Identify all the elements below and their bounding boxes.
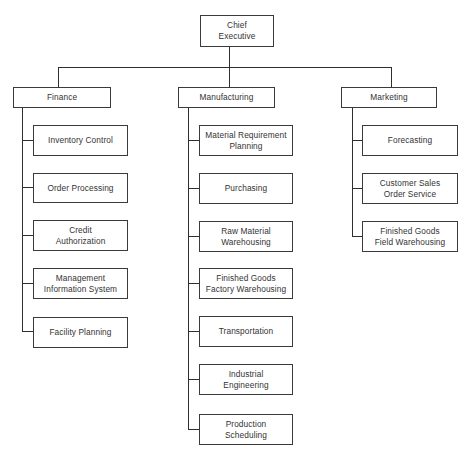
finance-branch	[22, 283, 33, 284]
connector-to-manufacturing	[229, 67, 230, 87]
node-production-scheduling: Production Scheduling	[199, 414, 293, 445]
node-finished-goods-field-warehousing: Finished Goods Field Warehousing	[362, 221, 458, 252]
marketing-branch	[352, 236, 362, 237]
node-purchasing: Purchasing	[199, 173, 293, 204]
node-chief-executive: Chief Executive	[200, 15, 274, 47]
node-transportation: Transportation	[199, 316, 293, 347]
node-forecasting: Forecasting	[362, 125, 458, 156]
node-facility-planning: Facility Planning	[33, 317, 128, 348]
marketing-stem	[352, 107, 353, 237]
manufacturing-branch	[188, 283, 199, 284]
marketing-branch	[352, 140, 362, 141]
node-management-information-system: Management Information System	[33, 268, 128, 299]
node-material-requirement-planning: Material Requirement Planning	[199, 125, 293, 156]
manufacturing-stem	[188, 107, 189, 430]
marketing-branch	[352, 188, 362, 189]
finance-branch	[22, 331, 33, 332]
manufacturing-branch	[188, 331, 199, 332]
connector-root-down	[229, 46, 230, 68]
manufacturing-branch	[188, 429, 199, 430]
node-inventory-control: Inventory Control	[33, 125, 128, 156]
node-credit-authorization: Credit Authorization	[33, 220, 128, 251]
node-finance: Finance	[13, 87, 111, 108]
connector-to-finance	[58, 67, 59, 87]
node-marketing: Marketing	[341, 87, 437, 108]
connector-to-marketing	[391, 67, 392, 87]
finance-branch	[22, 140, 33, 141]
node-customer-sales-order-service: Customer Sales Order Service	[362, 173, 458, 204]
manufacturing-branch	[188, 188, 199, 189]
manufacturing-branch	[188, 236, 199, 237]
node-manufacturing: Manufacturing	[178, 87, 275, 108]
finance-branch	[22, 235, 33, 236]
node-order-processing: Order Processing	[33, 173, 128, 203]
manufacturing-branch	[188, 379, 199, 380]
finance-branch	[22, 187, 33, 188]
node-raw-material-warehousing: Raw Material Warehousing	[199, 221, 293, 252]
node-industrial-engineering: Industrial Engineering	[199, 364, 293, 395]
manufacturing-branch	[188, 140, 199, 141]
node-finished-goods-factory-warehousing: Finished Goods Factory Warehousing	[199, 268, 293, 299]
connector-top-bar	[58, 67, 392, 68]
